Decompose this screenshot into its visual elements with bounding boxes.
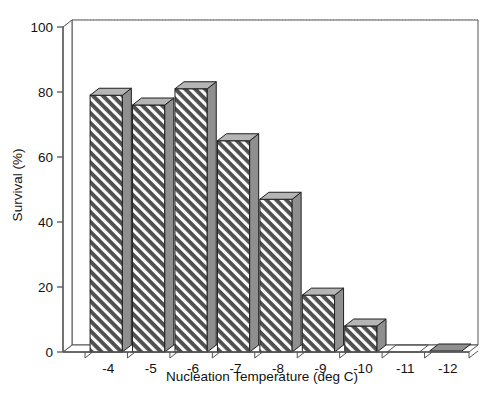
x-axis-title: Nucleation Temperature (deg C) xyxy=(166,369,358,384)
y-tick-label: 80 xyxy=(38,85,53,100)
bar-neg7 xyxy=(217,134,258,352)
bar-neg10 xyxy=(345,319,386,352)
x-tick-label: -11 xyxy=(396,361,415,376)
bar-neg6 xyxy=(175,82,216,352)
y-tick-label: 60 xyxy=(38,150,53,165)
x-tick-label: -5 xyxy=(145,361,157,376)
y-tick-labels: 020406080100 xyxy=(30,20,53,360)
chart-figure: 020406080100 -4-5-6-7-8-9-10-11-12 Survi… xyxy=(0,0,493,393)
bar-neg4 xyxy=(90,88,131,352)
bar-neg9 xyxy=(302,288,343,352)
y-axis-title: Survival (%) xyxy=(10,149,25,222)
y-tick-label: 40 xyxy=(38,215,53,230)
y-tick-label: 100 xyxy=(30,20,53,35)
x-tick-label: -4 xyxy=(102,361,114,376)
y-tick-label: 0 xyxy=(45,345,53,360)
y-tick-label: 20 xyxy=(38,280,53,295)
bar-chart-svg: 020406080100 -4-5-6-7-8-9-10-11-12 Survi… xyxy=(0,0,493,393)
bar-neg5 xyxy=(133,98,174,352)
bar-neg8 xyxy=(260,192,301,352)
x-tick-label: -12 xyxy=(438,361,458,376)
